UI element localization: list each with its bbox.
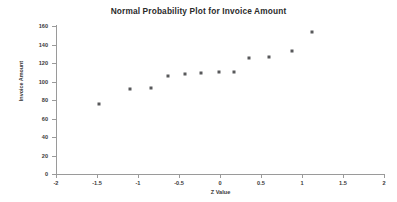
x-tick-mark	[302, 174, 303, 178]
x-tick-label: 0	[205, 180, 235, 187]
x-tick-mark	[261, 174, 262, 178]
scatter-points-layer	[56, 26, 384, 174]
y-tick-label: 100	[8, 79, 48, 85]
x-tick-mark	[56, 174, 57, 178]
normal-probability-plot: Normal Probability Plot for Invoice Amou…	[0, 0, 397, 202]
x-tick-mark	[220, 174, 221, 178]
data-point	[128, 87, 131, 90]
x-tick-label: 2	[369, 180, 397, 187]
y-tick-label: 0	[8, 171, 48, 177]
chart-title: Normal Probability Plot for Invoice Amou…	[0, 6, 397, 16]
x-tick-mark	[138, 174, 139, 178]
data-point	[200, 72, 203, 75]
y-tick-label: 80	[8, 97, 48, 103]
data-point	[218, 71, 221, 74]
x-tick-mark	[97, 174, 98, 178]
x-tick-label: 1.5	[328, 180, 358, 187]
data-point	[291, 49, 294, 52]
x-tick-mark	[179, 174, 180, 178]
x-tick-label: -0.5	[164, 180, 194, 187]
y-tick-label: 60	[8, 116, 48, 122]
data-point	[247, 57, 250, 60]
x-tick-mark	[384, 174, 385, 178]
data-point	[167, 74, 170, 77]
x-axis-title: Z Value	[56, 189, 385, 196]
data-point	[268, 56, 271, 59]
x-tick-label: -2	[41, 180, 71, 187]
data-point	[98, 102, 101, 105]
data-point	[232, 71, 235, 74]
data-point	[310, 30, 313, 33]
x-tick-mark	[343, 174, 344, 178]
x-tick-label: 0.5	[246, 180, 276, 187]
data-point	[183, 73, 186, 76]
x-tick-label: -1	[123, 180, 153, 187]
y-tick-label: 140	[8, 42, 48, 48]
x-tick-label: -1.5	[82, 180, 112, 187]
y-tick-label: 20	[8, 153, 48, 159]
y-tick-label: 160	[8, 23, 48, 29]
y-axis-title: Invoice Amount	[18, 41, 24, 121]
y-tick-label: 40	[8, 134, 48, 140]
x-tick-label: 1	[287, 180, 317, 187]
y-tick-label: 120	[8, 60, 48, 66]
data-point	[150, 86, 153, 89]
plot-area	[56, 26, 384, 174]
